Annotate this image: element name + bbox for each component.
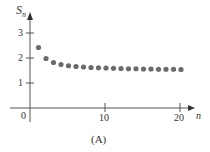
y-axis-arrow-icon <box>27 12 33 20</box>
chart-canvas <box>0 0 210 152</box>
data-points <box>36 45 184 72</box>
data-point <box>51 60 56 65</box>
data-point <box>81 64 86 69</box>
data-point <box>73 64 78 69</box>
data-point <box>133 66 138 71</box>
y-axis-label: Sn <box>16 4 26 19</box>
x-tick-label-10: 10 <box>99 113 109 123</box>
data-point <box>126 66 131 71</box>
data-point <box>43 56 48 61</box>
data-point <box>178 67 183 72</box>
data-point <box>141 66 146 71</box>
data-point <box>88 65 93 70</box>
y-axis-label-sub: n <box>22 10 26 19</box>
data-point <box>156 67 161 72</box>
y-tick-label-2: 2 <box>18 53 23 63</box>
figure-caption: (A) <box>91 134 106 145</box>
data-point <box>163 67 168 72</box>
data-point <box>111 66 116 71</box>
x-axis-arrow-icon <box>188 105 195 111</box>
y-tick-label-1: 1 <box>18 78 23 88</box>
data-point <box>58 62 63 67</box>
data-point <box>118 66 123 71</box>
data-point <box>148 66 153 71</box>
data-point <box>96 65 101 70</box>
x-axis-label: n <box>196 111 201 121</box>
data-point <box>36 45 41 50</box>
origin-label: 0 <box>21 111 26 121</box>
data-point <box>171 67 176 72</box>
y-tick-label-3: 3 <box>18 28 23 38</box>
x-tick-label-20: 20 <box>174 113 184 123</box>
data-point <box>103 65 108 70</box>
data-point <box>66 63 71 68</box>
